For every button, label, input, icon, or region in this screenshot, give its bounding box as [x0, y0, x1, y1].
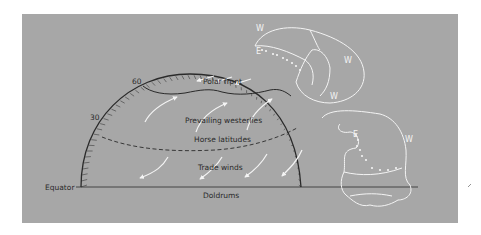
lat-30-label: 30: [90, 113, 100, 122]
cell-label-w4: W: [405, 135, 413, 144]
polar-front-line: [143, 86, 291, 96]
prevailing-westerlies-label: Prevailing westerlies: [185, 116, 262, 125]
cell-label-e2: E: [353, 130, 358, 139]
doldrums-label: Doldrums: [203, 191, 239, 200]
lower-circulation-cell: [322, 111, 411, 206]
upper-cell-arrows: [261, 49, 301, 71]
cell-label-e1: E: [256, 47, 261, 56]
cell-label-w2: W: [344, 56, 352, 65]
stray-mark: [468, 184, 471, 187]
horse-latitudes-label: Horse latitudes: [194, 135, 251, 144]
circulation-diagram: 60 30 Equator Polar front Prevailing wes…: [0, 0, 481, 235]
lower-cell-arrows: [355, 134, 397, 171]
lat-60-label: 60: [132, 77, 142, 86]
cell-label-w3: W: [330, 92, 338, 101]
equator-label: Equator: [45, 183, 75, 192]
trade-winds-label: Trade winds: [197, 163, 243, 172]
cell-label-w1: W: [256, 24, 264, 33]
polar-front-label: Polar front: [203, 77, 242, 86]
upper-circulation-cell: [255, 28, 364, 103]
